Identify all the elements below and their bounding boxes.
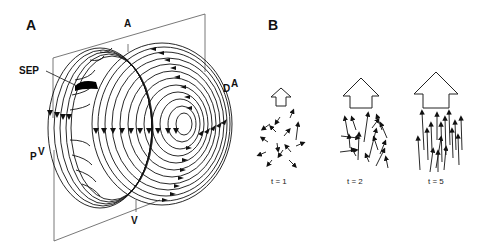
group-t1: t = 1 [259, 88, 303, 186]
block-arrow-medium [343, 78, 379, 108]
panel-b: B t = 1 [259, 17, 462, 186]
axis-bottom-label: V [131, 215, 138, 226]
svg-text:A: A [231, 78, 238, 89]
group-t5: t = 5 [414, 72, 462, 186]
time-label-t5: t = 5 [428, 177, 444, 186]
panel-b-label: B [268, 17, 278, 33]
axis-top-label: A [124, 18, 131, 29]
panel-a: A [19, 14, 238, 241]
time-label-t2: t = 2 [347, 177, 363, 186]
front-disc-streamlines [92, 43, 232, 205]
da-label: D A [223, 78, 238, 94]
group-t2: t = 2 [340, 78, 388, 186]
sep-region [75, 81, 98, 91]
time-label-t1: t = 1 [271, 177, 287, 186]
panel-a-label: A [26, 17, 36, 33]
block-arrow-large [414, 72, 458, 108]
sep-label: SEP [19, 65, 39, 76]
block-arrow-small [271, 88, 291, 106]
svg-text:P: P [30, 151, 37, 162]
svg-text:D: D [223, 83, 230, 94]
section-plane-frame [53, 14, 205, 241]
figure: A [0, 0, 480, 248]
svg-text:V: V [38, 146, 45, 157]
pv-label: P V [30, 146, 45, 162]
